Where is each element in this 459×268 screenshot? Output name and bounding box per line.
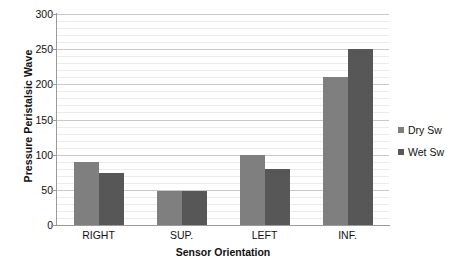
- bar: [182, 191, 207, 225]
- bar: [99, 173, 124, 225]
- y-axis-tick-label: 200: [22, 78, 53, 90]
- y-axis-tick-mark: [51, 49, 57, 50]
- legend-label: Wet Sw: [408, 146, 444, 158]
- y-axis-tick-mark: [51, 225, 57, 226]
- x-axis-tick-labels: RIGHTSUP.LEFTINF.: [57, 229, 389, 245]
- y-axis-tick-label: 50: [22, 184, 53, 196]
- x-axis-tick-label: SUP.: [170, 229, 193, 241]
- bars-layer: [57, 14, 389, 225]
- y-axis-tick-mark: [51, 14, 57, 15]
- bar-chart: Pressure Peristalsic Wave 05010015020025…: [0, 0, 459, 268]
- bar: [348, 49, 373, 225]
- y-axis-tick-label: 100: [22, 149, 53, 161]
- bar: [157, 191, 182, 225]
- legend-label: Dry Sw: [408, 124, 442, 136]
- bar: [74, 162, 99, 225]
- legend-swatch-icon: [398, 149, 404, 155]
- bar: [323, 77, 348, 225]
- legend-item: Wet Sw: [398, 143, 458, 160]
- y-axis-tick-mark: [51, 84, 57, 85]
- y-axis-tick-label: 0: [22, 219, 53, 231]
- legend: Dry SwWet Sw: [398, 121, 458, 165]
- bar: [240, 155, 265, 225]
- y-axis-tick-label: 250: [22, 43, 53, 55]
- x-axis-tick-label: INF.: [338, 229, 357, 241]
- y-axis-tick-label: 150: [22, 114, 53, 126]
- y-axis-tick-mark: [51, 120, 57, 121]
- legend-swatch-icon: [398, 127, 404, 133]
- plot-area: [57, 14, 389, 225]
- bar: [265, 169, 290, 225]
- x-axis-title: Sensor Orientation: [57, 246, 389, 258]
- y-axis-tick-label: 300: [22, 8, 53, 20]
- x-axis-line: [57, 225, 390, 226]
- legend-item: Dry Sw: [398, 121, 458, 138]
- y-axis-tick-mark: [51, 190, 57, 191]
- x-axis-tick-label: LEFT: [252, 229, 278, 241]
- y-axis-tick-mark: [51, 155, 57, 156]
- x-axis-tick-label: RIGHT: [82, 229, 115, 241]
- y-axis-tick-labels: 050100150200250300: [22, 14, 53, 225]
